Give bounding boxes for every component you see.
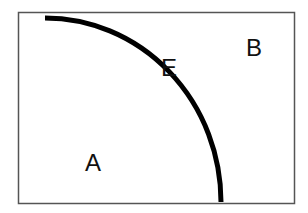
diagram-canvas [0,0,308,213]
label-a: A [85,151,101,175]
label-e: E [161,56,177,80]
label-b: B [246,36,262,60]
